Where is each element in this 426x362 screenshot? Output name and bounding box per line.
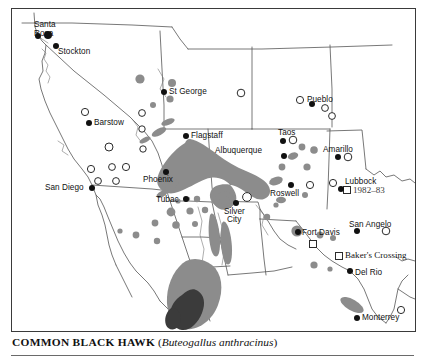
label-stockton: Stockton (58, 47, 90, 56)
label-barstow: Barstow (94, 118, 124, 127)
label-st-george: St George (169, 87, 207, 96)
label-san-angelo: San Angelo (349, 220, 391, 229)
river-lines (36, 33, 268, 287)
title-common-name: COMMON BLACK HAWK (12, 336, 155, 348)
label-silver-city-line2: City (227, 216, 241, 225)
label-del-rio: Del Rio (355, 268, 382, 277)
label-amarillo: Amarillo (323, 145, 353, 154)
label-albuquerque: Albuquerque (215, 146, 262, 155)
label-santa-rosa-line2: Rosa (34, 30, 53, 39)
map-canvas (12, 9, 415, 331)
figure-title: COMMON BLACK HAWK (Buteogallus anthracin… (12, 336, 412, 348)
label-bakers-crossing: Baker's Crossing (345, 251, 407, 260)
label-pueblo: Pueblo (307, 95, 333, 104)
title-divider (11, 355, 414, 356)
label-flagstaff: Flagstaff (191, 131, 223, 140)
species-range-map-figure: Santa Rosa Stockton St George Pueblo Bar… (0, 0, 426, 362)
label-tubac: Tubac (156, 195, 179, 204)
map-frame: Santa Rosa Stockton St George Pueblo Bar… (11, 8, 416, 332)
label-monterrey: Monterrey (362, 313, 399, 322)
label-taos: Taos (278, 128, 296, 137)
title-scientific-name: Buteogallus anthracinus (162, 336, 274, 348)
record-square-group (310, 187, 351, 260)
title-paren-close: ) (273, 336, 277, 348)
label-phoenix: Phoenix (143, 175, 173, 184)
label-san-diego: San Diego (45, 183, 84, 192)
label-lubbock-years: 1982–83 (353, 186, 385, 195)
label-roswell: Roswell (270, 189, 299, 198)
label-fort-davis: Fort Davis (302, 228, 340, 237)
sighting-record-group (81, 89, 415, 313)
